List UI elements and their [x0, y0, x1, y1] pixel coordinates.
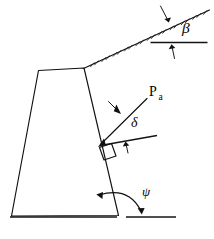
sloped-ground-surface	[84, 10, 210, 69]
label-psi: ψ	[142, 184, 151, 199]
label-beta: β	[181, 19, 190, 36]
label-delta: δ	[131, 115, 138, 130]
beta-slope-arrow	[161, 6, 172, 23]
label-active-force: P	[149, 84, 157, 99]
beta-horizontal-arrow	[169, 44, 176, 58]
beta-angle-group	[151, 6, 208, 59]
psi-angle-arc	[96, 192, 144, 215]
active-force-direction-arrow	[109, 102, 122, 115]
figure-canvas: β δ ψ P a	[0, 0, 214, 239]
delta-reference-arrow	[123, 142, 130, 153]
active-force-vector	[98, 99, 147, 148]
retaining-wall-figure: β δ ψ P a	[0, 0, 214, 239]
label-active-force-subscript: a	[159, 92, 164, 102]
